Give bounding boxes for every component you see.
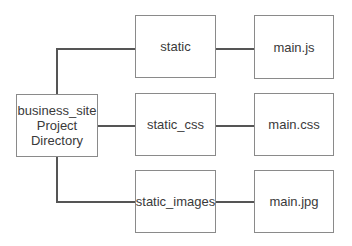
folder-node-static-css: static_css [135, 93, 216, 156]
connector-static-images-to-main-jpg [216, 201, 254, 203]
connector-static-css-to-main-css [216, 125, 254, 127]
folder-node-static-images: static_images [135, 170, 216, 233]
file-label: main.css [268, 117, 319, 132]
folder-label: static [160, 39, 190, 54]
connector-root-to-static-css [98, 125, 135, 127]
folder-label: static_css [147, 117, 204, 132]
file-node-main-jpg: main.jpg [254, 170, 334, 233]
connector-root-to-static-images [56, 201, 135, 203]
root-label-line-3: Directory [31, 133, 83, 148]
file-node-main-js: main.js [254, 15, 334, 79]
connector-static-to-main-js [216, 48, 254, 50]
root-label-line-1: business_site [18, 103, 97, 118]
root-label-line-2: Project [37, 118, 77, 133]
file-label: main.jpg [269, 194, 318, 209]
connector-root-down [56, 157, 58, 202]
file-label: main.js [273, 40, 314, 55]
folder-label: static_images [136, 194, 215, 209]
root-node: business_site Project Directory [16, 94, 98, 157]
connector-root-up [56, 48, 58, 94]
file-node-main-css: main.css [254, 93, 334, 156]
folder-node-static: static [135, 15, 216, 78]
connector-root-to-static [56, 48, 135, 50]
